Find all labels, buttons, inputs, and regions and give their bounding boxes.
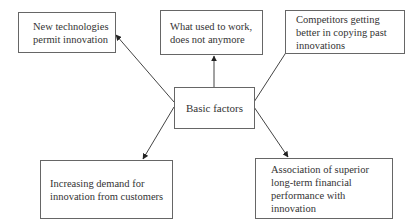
- diagram-canvas: New technologies permit innovation What …: [0, 0, 410, 223]
- arrow-to-bottom-right: [254, 107, 288, 157]
- factor-box-what-used-to-work: What used to work, does not anymore: [160, 10, 263, 55]
- factor-box-new-technologies: New technologies permit innovation: [18, 12, 116, 53]
- factor-box-increasing-demand: Increasing demand for innovation from cu…: [40, 160, 173, 219]
- factor-box-association: Association of superior long-term financ…: [255, 158, 393, 219]
- factor-label: Association of superior long-term financ…: [271, 163, 369, 215]
- factor-label: New technologies permit innovation: [33, 20, 109, 46]
- factor-label: Increasing demand for innovation from cu…: [50, 177, 163, 203]
- factor-label: What used to work, does not anymore: [170, 20, 252, 46]
- center-box-basic-factors: Basic factors: [174, 87, 255, 129]
- factor-label: Competitors getting better in copying pa…: [296, 13, 387, 52]
- factor-box-competitors: Competitors getting better in copying pa…: [285, 10, 405, 54]
- center-label: Basic factors: [186, 102, 243, 115]
- arrow-to-bottom-left: [143, 107, 174, 159]
